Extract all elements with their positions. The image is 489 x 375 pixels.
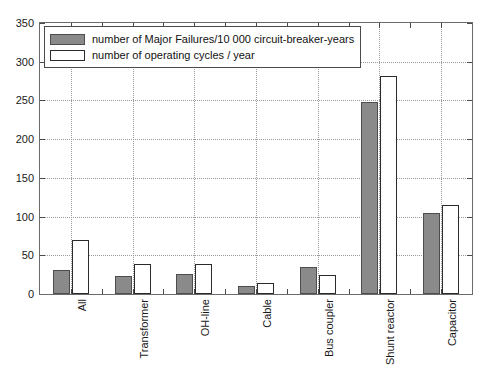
bar	[195, 264, 212, 294]
x-axis-tick-label: Transformer	[138, 299, 150, 359]
y-axis-tick-label: 100	[0, 211, 34, 223]
y-axis-tick-label: 150	[0, 172, 34, 184]
legend-item-cycles: number of operating cycles / year	[50, 47, 354, 63]
legend-item-failures: number of Major Failures/10 000 circuit-…	[50, 31, 354, 47]
x-axis-tick-label: All	[76, 299, 88, 311]
x-tick-mark	[379, 23, 380, 28]
bar	[423, 213, 440, 294]
chart-legend: number of Major Failures/10 000 circuit-…	[44, 26, 361, 68]
bar	[300, 267, 317, 294]
y-axis-tick-label: 300	[0, 56, 34, 68]
bar	[442, 205, 459, 294]
x-tick-mark	[441, 23, 442, 28]
bar	[380, 76, 397, 294]
y-tick-mark	[40, 100, 45, 101]
bar	[134, 264, 151, 294]
y-tick-mark	[40, 23, 45, 24]
y-tick-mark	[40, 178, 45, 179]
x-tick-mark	[410, 289, 411, 294]
x-tick-mark	[287, 289, 288, 294]
y-tick-mark	[467, 255, 472, 256]
y-axis-tick-label: 200	[0, 133, 34, 145]
bar	[176, 274, 193, 294]
bar	[238, 286, 255, 294]
y-tick-mark	[467, 62, 472, 63]
x-axis-tick-label: OH-line	[199, 299, 211, 336]
x-tick-mark	[349, 289, 350, 294]
y-tick-mark	[40, 139, 45, 140]
bar	[319, 275, 336, 294]
x-axis-tick-label: Bus coupler	[323, 299, 335, 357]
legend-swatch-cycles	[50, 50, 85, 61]
x-tick-mark	[163, 289, 164, 294]
x-tick-mark	[102, 289, 103, 294]
y-tick-mark	[467, 178, 472, 179]
bar	[53, 270, 70, 294]
y-axis-tick-label: 250	[0, 94, 34, 106]
y-tick-mark	[467, 139, 472, 140]
y-tick-mark	[40, 217, 45, 218]
bar	[361, 102, 378, 294]
y-axis-tick-label: 0	[0, 288, 34, 300]
bar	[115, 276, 132, 294]
legend-swatch-failures	[50, 34, 85, 45]
y-tick-mark	[467, 217, 472, 218]
bar	[72, 240, 89, 294]
x-axis-tick-label: Capacitor	[446, 299, 458, 346]
x-axis-tick-label: Cable	[261, 299, 273, 328]
chart-figure: number of Major Failures/10 000 circuit-…	[0, 0, 489, 375]
x-tick-mark	[410, 23, 411, 28]
y-tick-mark	[467, 100, 472, 101]
y-axis-tick-label: 350	[0, 17, 34, 29]
bar	[257, 283, 274, 294]
x-axis-tick-label: Shunt reactor	[384, 299, 396, 365]
y-tick-mark	[467, 23, 472, 24]
x-tick-mark	[225, 289, 226, 294]
y-tick-mark	[40, 255, 45, 256]
legend-label-failures: number of Major Failures/10 000 circuit-…	[92, 33, 354, 46]
legend-label-cycles: number of operating cycles / year	[92, 49, 255, 62]
y-axis-tick-label: 50	[0, 249, 34, 261]
